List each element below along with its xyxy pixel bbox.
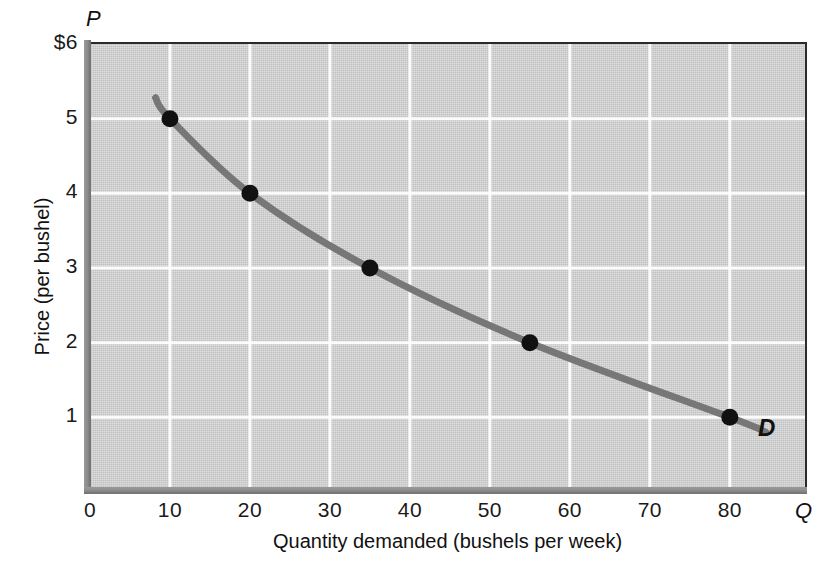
y-axis-tick-label: 1 xyxy=(8,403,78,427)
y-axis-spine xyxy=(84,40,91,494)
data-point-marker xyxy=(161,110,178,127)
demand-curve-label: D xyxy=(758,414,775,442)
y-axis-tick-label: $6 xyxy=(8,30,78,54)
price-axis-symbol: P xyxy=(86,6,101,32)
data-point-marker xyxy=(241,185,258,202)
x-axis-tick-label: 10 xyxy=(140,498,200,522)
data-point-marker xyxy=(361,260,378,277)
x-axis-tick-label: 60 xyxy=(540,498,600,522)
data-point-marker xyxy=(521,334,538,351)
demand-curve-layer xyxy=(90,44,805,492)
demand-curve-figure: $654321 01020304050607080 Quantity deman… xyxy=(0,0,821,567)
x-axis-tick-label: 70 xyxy=(620,498,680,522)
plot-area xyxy=(90,42,807,492)
x-axis-tick-label: 0 xyxy=(60,498,120,522)
y-axis-tick-label: 5 xyxy=(8,105,78,129)
x-axis-tick-label: 30 xyxy=(300,498,360,522)
x-axis-tick-label: 40 xyxy=(380,498,440,522)
x-axis-tick-label: 20 xyxy=(220,498,280,522)
x-axis-tick-label: 50 xyxy=(460,498,520,522)
y-axis-title: Price (per bushel) xyxy=(31,147,54,407)
x-axis-title: Quantity demanded (bushels per week) xyxy=(90,530,805,553)
x-axis-spine xyxy=(84,487,807,494)
quantity-axis-symbol: Q xyxy=(795,498,812,524)
x-axis-tick-label: 80 xyxy=(700,498,760,522)
demand-curve-path xyxy=(156,98,766,433)
data-point-marker xyxy=(721,409,738,426)
